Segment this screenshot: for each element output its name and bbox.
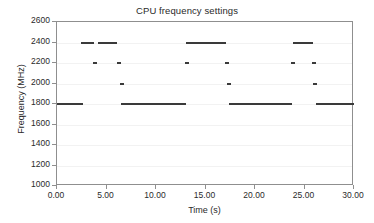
- y-tick-mark: [52, 165, 56, 166]
- y-tick-mark: [52, 62, 56, 63]
- x-tick-mark: [155, 185, 156, 189]
- x-axis-label: Time (s): [56, 205, 353, 215]
- gridline: [57, 84, 352, 85]
- gridline: [57, 104, 352, 105]
- data-segment: [120, 83, 124, 85]
- x-tick-label: 0.00: [34, 191, 78, 200]
- x-tick-label: 15.00: [183, 191, 227, 200]
- y-tick-label: 2000: [4, 78, 50, 87]
- gridline: [57, 63, 352, 64]
- y-tick-mark: [52, 103, 56, 104]
- data-segment: [186, 42, 227, 44]
- y-tick-label: 1000: [4, 180, 50, 189]
- data-segment: [227, 83, 231, 85]
- gridline: [57, 125, 352, 126]
- data-segment: [293, 42, 314, 44]
- y-tick-label: 2400: [4, 37, 50, 46]
- data-segment: [225, 62, 229, 64]
- data-segment: [229, 103, 291, 105]
- y-tick-label: 1400: [4, 139, 50, 148]
- data-segment: [121, 103, 185, 105]
- x-tick-mark: [205, 185, 206, 189]
- chart-figure: CPU frequency settings Frequency (MHz) 1…: [0, 0, 374, 223]
- x-tick-mark: [56, 185, 57, 189]
- data-segment: [117, 62, 121, 64]
- data-segment: [98, 42, 118, 44]
- y-tick-label: 1200: [4, 160, 50, 169]
- y-tick-mark: [52, 21, 56, 22]
- chart-title: CPU frequency settings: [0, 5, 374, 16]
- y-tick-mark: [52, 124, 56, 125]
- data-segment: [291, 62, 295, 64]
- data-segment: [185, 62, 189, 64]
- gridline: [57, 166, 352, 167]
- x-tick-label: 30.00: [331, 191, 374, 200]
- x-tick-label: 10.00: [133, 191, 177, 200]
- y-tick-label: 2600: [4, 16, 50, 25]
- data-segment: [93, 62, 97, 64]
- data-segment: [81, 42, 94, 44]
- x-tick-mark: [254, 185, 255, 189]
- data-segment: [313, 83, 317, 85]
- x-tick-mark: [353, 185, 354, 189]
- x-tick-label: 25.00: [282, 191, 326, 200]
- x-tick-label: 20.00: [232, 191, 276, 200]
- data-segment: [312, 62, 316, 64]
- x-tick-mark: [304, 185, 305, 189]
- data-segment: [57, 103, 83, 105]
- y-tick-label: 1800: [4, 98, 50, 107]
- x-tick-mark: [106, 185, 107, 189]
- data-segment: [316, 103, 354, 105]
- y-tick-mark: [52, 42, 56, 43]
- y-tick-label: 1600: [4, 119, 50, 128]
- y-tick-label: 2200: [4, 57, 50, 66]
- y-tick-mark: [52, 144, 56, 145]
- y-tick-mark: [52, 83, 56, 84]
- gridline: [57, 145, 352, 146]
- x-tick-label: 5.00: [84, 191, 128, 200]
- plot-area: [56, 21, 353, 185]
